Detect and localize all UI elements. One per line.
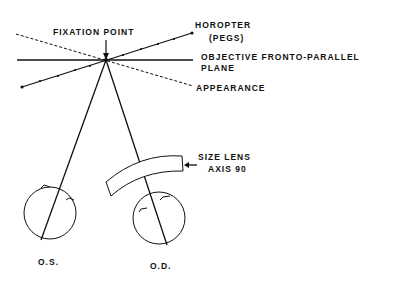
right-eye-icon	[133, 192, 185, 244]
horopter-sub-label: (PEGS)	[209, 33, 244, 43]
left-eye-icon	[24, 185, 76, 239]
objective-plane-sub-label: PLANE	[201, 63, 235, 73]
objective-plane-label: OBJECTIVE FRONTO-PARALLEL	[201, 52, 360, 62]
size-lens-icon	[106, 156, 183, 196]
diagram-canvas	[0, 0, 407, 284]
fixation-point-label: FIXATION POINT	[53, 27, 134, 37]
left-eye-label: O.S.	[38, 257, 59, 267]
right-eye-label: O.D.	[150, 261, 171, 271]
size-lens-sub-label: AXIS 90	[208, 164, 247, 174]
right-visual-axis	[106, 60, 167, 245]
appearance-label: APPEARANCE	[196, 83, 266, 93]
left-visual-axis	[41, 60, 106, 240]
size-lens-label: SIZE LENS	[198, 152, 251, 162]
horopter-label: HOROPTER	[195, 20, 251, 30]
